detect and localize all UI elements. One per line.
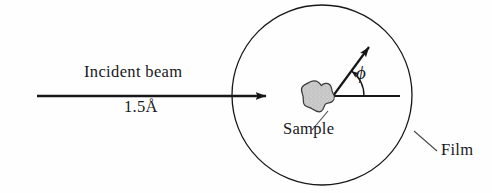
film-leader-line xyxy=(414,131,437,151)
sample-blob xyxy=(301,81,334,112)
incident-beam-label: Incident beam xyxy=(84,64,182,81)
diagram-canvas xyxy=(0,0,492,193)
sample-label: Sample xyxy=(283,121,334,138)
wavelength-label: 1.5Å xyxy=(124,99,158,116)
phi-angle-label: ϕ xyxy=(356,63,366,82)
film-label: Film xyxy=(441,142,473,159)
diffraction-diagram-figure: Incident beam 1.5Å Sample Film ϕ xyxy=(0,0,492,193)
